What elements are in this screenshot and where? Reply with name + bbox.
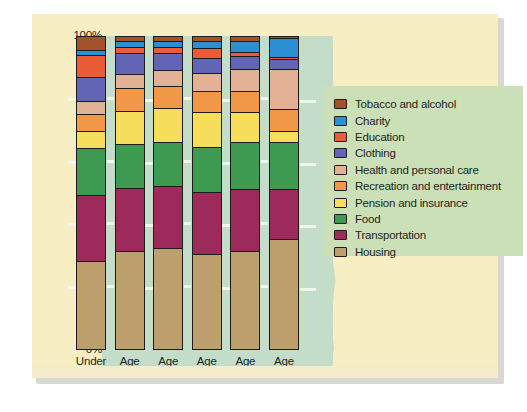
x-axis-label-line: 55–64 bbox=[224, 368, 266, 381]
legend-swatch-icon bbox=[334, 116, 347, 126]
bar-segment bbox=[193, 193, 221, 255]
legend-label: Charity bbox=[355, 115, 390, 127]
stacked-bar[interactable] bbox=[230, 36, 260, 350]
legend-label: Food bbox=[355, 213, 380, 225]
stacked-bar[interactable] bbox=[76, 36, 106, 350]
legend-swatch-icon bbox=[334, 132, 347, 142]
bar-segment bbox=[231, 143, 259, 190]
x-axis-label-line: 25 bbox=[70, 368, 112, 381]
bar-segment bbox=[77, 115, 105, 132]
legend-item[interactable]: Health and personal care bbox=[334, 162, 517, 178]
x-axis-label-line: Age bbox=[186, 355, 228, 368]
bar-segment bbox=[231, 57, 259, 69]
bar-segment bbox=[193, 74, 221, 91]
bar-segment bbox=[116, 112, 144, 145]
bar-segment bbox=[270, 190, 298, 240]
legend-swatch-icon bbox=[334, 247, 347, 257]
bar-segment bbox=[270, 60, 298, 69]
bar-segment bbox=[154, 87, 182, 109]
legend-swatch-icon bbox=[334, 214, 347, 224]
bar-segment bbox=[116, 145, 144, 189]
x-axis-label: Age55–64 bbox=[224, 355, 266, 380]
legend-label: Clothing bbox=[355, 147, 396, 159]
legend-item[interactable]: Charity bbox=[334, 112, 517, 128]
bar-segment bbox=[231, 252, 259, 349]
legend-item[interactable]: Housing bbox=[334, 244, 517, 260]
bar-segment bbox=[193, 59, 221, 75]
legend-item[interactable]: Clothing bbox=[334, 145, 517, 161]
bar-segment bbox=[154, 187, 182, 249]
bar-segment bbox=[116, 252, 144, 349]
bar-segment bbox=[193, 148, 221, 193]
legend-item[interactable]: Transportation bbox=[334, 227, 517, 243]
bar-segment bbox=[77, 78, 105, 103]
bar-segment bbox=[270, 240, 298, 349]
stacked-bar[interactable] bbox=[269, 36, 299, 350]
bar-segment bbox=[154, 54, 182, 71]
legend-label: Health and personal care bbox=[355, 164, 479, 176]
legend-label: Pension and insurance bbox=[355, 197, 468, 209]
bar-segment bbox=[154, 143, 182, 187]
legend-label: Transportation bbox=[355, 229, 426, 241]
bar-segment bbox=[231, 70, 259, 92]
stacked-bar[interactable] bbox=[115, 36, 145, 350]
legend-swatch-icon bbox=[334, 165, 347, 175]
legend-swatch-icon bbox=[334, 198, 347, 208]
legend: Tobacco and alcoholCharityEducationCloth… bbox=[324, 86, 523, 256]
figure-card: 0%20%40%60%80%100% Under25Age25–34Age35–… bbox=[32, 14, 498, 378]
stacked-bar[interactable] bbox=[153, 36, 183, 350]
legend-swatch-icon bbox=[334, 148, 347, 158]
legend-label: Education bbox=[355, 131, 404, 143]
x-axis-label-line: Age bbox=[109, 355, 151, 368]
bar-segment bbox=[77, 132, 105, 149]
legend-item[interactable]: Recreation and entertainment bbox=[334, 178, 517, 194]
legend-item[interactable]: Education bbox=[334, 129, 517, 145]
x-axis-label-line: 65+ bbox=[263, 368, 305, 381]
bar-segment bbox=[154, 109, 182, 143]
legend-label: Tobacco and alcohol bbox=[355, 98, 456, 110]
bar-segment bbox=[77, 102, 105, 114]
x-axis-label: Age35–44 bbox=[147, 355, 189, 380]
bar-segment bbox=[193, 255, 221, 349]
bar-segment bbox=[270, 143, 298, 190]
bar-segment bbox=[77, 262, 105, 349]
legend-label: Recreation and entertainment bbox=[355, 180, 501, 192]
x-axis-label-line: Under bbox=[70, 355, 112, 368]
bar-segment bbox=[231, 190, 259, 252]
x-axis-label-line: Age bbox=[224, 355, 266, 368]
x-axis-label-line: 25–34 bbox=[109, 368, 151, 381]
legend-items: Tobacco and alcoholCharityEducationCloth… bbox=[334, 96, 517, 260]
bar-segment bbox=[116, 89, 144, 113]
legend-swatch-icon bbox=[334, 230, 347, 240]
legend-swatch-icon bbox=[334, 181, 347, 191]
bar-segment bbox=[270, 110, 298, 132]
x-axis-label: Under25 bbox=[70, 355, 112, 380]
legend-item[interactable]: Pension and insurance bbox=[334, 194, 517, 210]
bar-segment bbox=[270, 70, 298, 111]
bar-segment bbox=[231, 113, 259, 143]
bar-segment bbox=[193, 113, 221, 147]
legend-label: Housing bbox=[355, 246, 396, 258]
bar-segment bbox=[193, 92, 221, 114]
x-axis-label-line: Age bbox=[263, 355, 305, 368]
bar-segment bbox=[77, 37, 105, 51]
bar-segment bbox=[77, 56, 105, 78]
bar-segment bbox=[193, 49, 221, 58]
bar-segment bbox=[116, 75, 144, 89]
bar-segment bbox=[231, 92, 259, 114]
bar-segment bbox=[116, 54, 144, 74]
legend-item[interactable]: Food bbox=[334, 211, 517, 227]
bar-segment bbox=[270, 132, 298, 143]
stacked-bar[interactable] bbox=[192, 36, 222, 350]
bar-segment bbox=[154, 71, 182, 87]
x-axis-label-line: 35–44 bbox=[147, 368, 189, 381]
bar-segment bbox=[77, 196, 105, 262]
legend-item[interactable]: Tobacco and alcohol bbox=[334, 96, 517, 112]
x-axis-label-line: 45–54 bbox=[186, 368, 228, 381]
legend-swatch-icon bbox=[334, 99, 347, 109]
bar-segment bbox=[270, 39, 298, 58]
x-axis-label: Age45–54 bbox=[186, 355, 228, 380]
x-axis-label: Age65+ bbox=[263, 355, 305, 380]
bar-segment bbox=[154, 249, 182, 349]
